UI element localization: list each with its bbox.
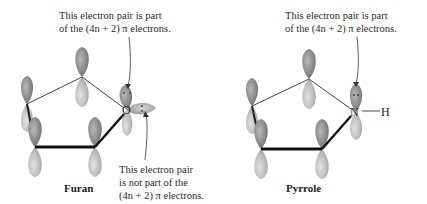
pyrrole-structure: N H: [246, 37, 390, 179]
furan-bottom-arrow: [145, 114, 147, 160]
pyrrole-front-bonds: [261, 116, 351, 149]
pyrrole-top-arrow: [356, 37, 358, 84]
furan-bonds: [27, 77, 124, 146]
furan-front-bonds: [35, 114, 124, 147]
furan-bottom-annotation-line3: (4n + 2) π electrons.: [119, 189, 204, 202]
furan-bottom-annotation-line2: is not part of the: [119, 176, 204, 189]
pyrrole-nitrogen-atom: N: [350, 105, 359, 119]
furan-top-arrow: [128, 37, 130, 86]
furan-bottom-annotation-line1: This electron pair: [119, 163, 204, 176]
furan-top-annotation-line2: of the (4n + 2) π electrons.: [59, 22, 171, 35]
furan-structure: O: [21, 37, 156, 177]
pyrrole-top-annotation: This electron pair is part of the (4n + …: [285, 9, 397, 35]
pyrrole-title: Pyrrole: [286, 182, 321, 194]
furan-oxygen-atom: O: [122, 103, 131, 117]
furan-top-annotation: This electron pair is part of the (4n + …: [59, 9, 171, 35]
pyrrole-top-annotation-line2: of the (4n + 2) π electrons.: [285, 22, 397, 35]
furan-title: Furan: [64, 182, 93, 194]
pyrrole-top-annotation-line1: This electron pair is part: [285, 9, 397, 22]
aromatic-heterocycles-diagram: O N: [0, 0, 427, 204]
furan-top-annotation-line1: This electron pair is part: [59, 9, 171, 22]
furan-bottom-annotation: This electron pair is not part of the (4…: [119, 163, 204, 202]
pyrrole-hydrogen-atom: H: [381, 105, 390, 119]
